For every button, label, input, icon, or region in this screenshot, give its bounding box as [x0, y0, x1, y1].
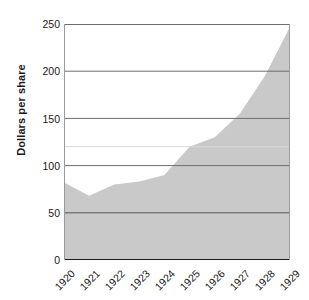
- x-tick-label: 1927: [228, 268, 252, 292]
- x-tick-label: 1929: [278, 268, 302, 292]
- x-tick-label: 1922: [103, 268, 127, 292]
- x-tick-label: 1923: [128, 268, 152, 292]
- x-tick-label: 1924: [153, 268, 177, 292]
- x-tick-label: 1920: [53, 268, 77, 292]
- x-axis-tick-labels: 1920 1921 1922 1923 1924 1925 1926 1927 …: [0, 0, 309, 300]
- x-tick-label: 1921: [78, 268, 102, 292]
- x-tick-label: 1926: [203, 268, 227, 292]
- x-tick-label: 1925: [178, 268, 202, 292]
- chart-container: Dollars per share 250 200 150 100 50 0: [0, 0, 309, 300]
- x-tick-label: 1928: [253, 268, 277, 292]
